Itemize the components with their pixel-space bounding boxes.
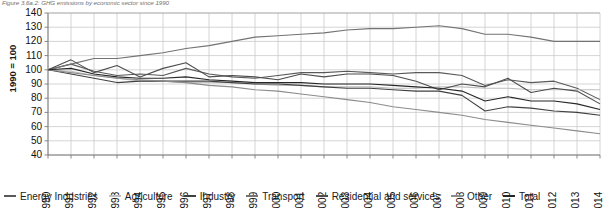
y-tick-label: 40: [16, 150, 42, 160]
y-tick-label: 80: [16, 93, 42, 103]
y-tick-label: 120: [16, 36, 42, 46]
legend-label: Industry: [200, 191, 236, 202]
legend-item[interactable]: Industry: [184, 191, 236, 202]
legend-label: Residential and services: [332, 191, 440, 202]
plot-container: 1990 = 100 140130120110100908070605040 1…: [0, 8, 604, 160]
legend-item[interactable]: Total: [503, 191, 540, 202]
y-tick-label: 70: [16, 107, 42, 117]
plot-area: [48, 13, 600, 155]
y-tick-label: 110: [16, 51, 42, 61]
line-chart-svg: [48, 13, 600, 155]
figure-root: Figure 3.6a.2: GHG emissions by economic…: [0, 0, 604, 208]
y-tick-label: 50: [16, 136, 42, 146]
legend-line-swatch: [4, 195, 16, 197]
legend-label: Other: [467, 191, 492, 202]
y-tick-label: 140: [16, 8, 42, 18]
y-tick-label: 130: [16, 22, 42, 32]
y-tick-label: 60: [16, 122, 42, 132]
legend-label: Transport: [262, 191, 304, 202]
legend: Energy IndustriesAgricultureIndustryTran…: [4, 188, 604, 204]
legend-item[interactable]: Other: [451, 191, 492, 202]
legend-line-swatch: [246, 195, 258, 197]
legend-label: Agriculture: [125, 191, 173, 202]
y-tick-label: 100: [16, 65, 42, 75]
legend-line-swatch: [503, 195, 515, 197]
legend-label: Energy Industries: [20, 191, 98, 202]
legend-line-swatch: [109, 195, 121, 197]
legend-item[interactable]: Energy Industries: [4, 191, 98, 202]
legend-item[interactable]: Agriculture: [109, 191, 173, 202]
y-axis-tick-labels: 140130120110100908070605040: [14, 8, 42, 160]
legend-line-swatch: [451, 195, 463, 197]
legend-line-swatch: [316, 195, 328, 197]
y-tick-label: 90: [16, 79, 42, 89]
legend-item[interactable]: Transport: [246, 191, 304, 202]
legend-label: Total: [519, 191, 540, 202]
figure-caption: Figure 3.6a.2: GHG emissions by economic…: [2, 0, 169, 7]
legend-item[interactable]: Residential and services: [316, 191, 440, 202]
legend-line-swatch: [184, 195, 196, 197]
